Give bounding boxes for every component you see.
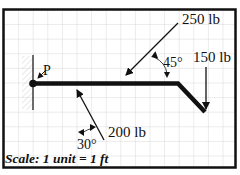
force-200-label: 200 lb (108, 124, 146, 140)
force-150-label: 150 lb (193, 49, 231, 65)
pivot-point (29, 80, 37, 88)
scale-label: Scale: 1 unit = 1 ft (5, 151, 110, 166)
pivot-label: P (43, 63, 51, 78)
force-250-label: 250 lb (182, 11, 220, 27)
force-diagram: P 250 lb 45° 150 lb 200 lb 30° Scale: 1 … (0, 0, 240, 175)
grid-background (4, 10, 236, 168)
angle-45-label: 45° (163, 55, 183, 70)
angle-30-label: 30° (77, 137, 97, 152)
